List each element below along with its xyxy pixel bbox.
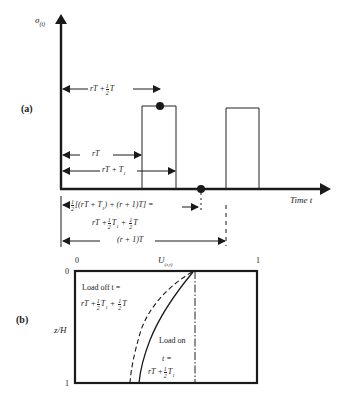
dim-label-mid-expr-line1: 12[(rT + T1) + (r + 1)T] = [70, 199, 153, 212]
x-axis-label-U: U(z,t) [158, 256, 172, 267]
load-off-text: Load off t = [82, 283, 120, 292]
fraction: 12 [108, 217, 111, 230]
panel-b-label: (b) [16, 315, 28, 325]
y-axis-label: σ(t) [35, 16, 45, 27]
subscript: 1 [105, 305, 108, 310]
y-axis-arrow-icon [55, 14, 67, 24]
load-on-label: Load on [159, 337, 185, 345]
y-axis-label-zH: z/H [54, 326, 67, 335]
fraction: 12 [118, 298, 121, 311]
expr-part: rT + [92, 218, 107, 227]
pulse-1 [142, 106, 176, 189]
fraction: 12 [129, 217, 132, 230]
numerator: 1 [71, 199, 74, 206]
fraction: 12 [71, 199, 74, 212]
x-tick-0: 0 [75, 257, 79, 265]
load-pulses [142, 106, 259, 189]
x-tick-1: 1 [256, 257, 260, 265]
expr-part: + [121, 218, 126, 227]
numerator: 1 [97, 298, 100, 305]
subscript: 1 [116, 224, 119, 229]
dim-text-tail: T [110, 84, 114, 93]
load-off-label-line2: rT +12T1+12T [81, 298, 127, 311]
y-tick-0: 0 [65, 268, 69, 276]
expr-part: T [133, 218, 137, 227]
x-axis-arrow-icon [320, 183, 331, 195]
load-off-label-line1: Load off t = [82, 284, 120, 292]
fraction: 12 [97, 298, 100, 311]
denominator: 2 [106, 90, 109, 96]
numerator: 1 [106, 83, 109, 90]
denominator: 2 [71, 206, 74, 212]
denominator: 2 [129, 224, 132, 230]
time-axis-dot [197, 185, 205, 193]
dim-label-mid-expr-line2: rT +12T1+12T [92, 217, 138, 230]
load-on-t-label: t = [162, 355, 172, 363]
expr-part: T [122, 299, 126, 308]
pulse-2 [226, 108, 259, 189]
dim-text: rT + [90, 84, 105, 93]
subscript: 1 [172, 373, 175, 378]
load-on-time-label: rT +12T1 [148, 366, 175, 379]
x-axis-label: Time t [290, 196, 312, 205]
expr-part: rT + [148, 367, 163, 376]
denominator: 2 [108, 224, 111, 230]
pulse-midpoint-dot [156, 102, 164, 110]
dim-text: rT + T [102, 165, 123, 174]
dim-label-rT-half-T: rT +12T [90, 83, 114, 96]
numerator: 1 [164, 366, 167, 373]
expr-part: + [110, 299, 115, 308]
expr-part: rT + [81, 299, 96, 308]
panel-a-axes [55, 14, 331, 195]
fraction: 12 [106, 83, 109, 96]
dim-label-rT: rT [92, 150, 100, 158]
numerator: 1 [129, 217, 132, 224]
dim-label-rT-T1: rT + T1 [102, 166, 126, 176]
dimension-arrows [61, 89, 226, 247]
denominator: 2 [164, 373, 167, 379]
subscript: 1 [123, 171, 126, 176]
dim-label-r1T: (r + 1)T [117, 236, 143, 244]
denominator: 2 [118, 305, 121, 311]
expr-part: ) + (r + 1)T] = [105, 200, 154, 209]
expr-part: [(rT + T [75, 200, 102, 209]
fraction: 12 [164, 366, 167, 379]
denominator: 2 [97, 305, 100, 311]
numerator: 1 [108, 217, 111, 224]
U-subscript: (z,t) [165, 262, 173, 267]
y-tick-1: 1 [65, 380, 69, 388]
sigma-subscript: (t) [39, 21, 45, 27]
numerator: 1 [118, 298, 121, 305]
panel-a-label: (a) [21, 104, 33, 114]
